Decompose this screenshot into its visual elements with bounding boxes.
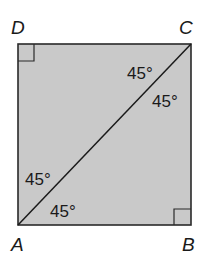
vertex-label-a: A <box>10 234 24 255</box>
square-diagonal-diagram: D C A B 45° 45° 45° 45° <box>0 0 206 263</box>
vertex-label-c: C <box>179 17 193 38</box>
angle-label-a-upper: 45° <box>25 170 51 189</box>
angle-label-a-lower: 45° <box>50 202 76 221</box>
vertex-label-d: D <box>11 17 25 38</box>
vertex-label-b: B <box>182 234 195 255</box>
angle-label-c-lower: 45° <box>152 92 178 111</box>
angle-label-c-upper: 45° <box>127 64 153 83</box>
